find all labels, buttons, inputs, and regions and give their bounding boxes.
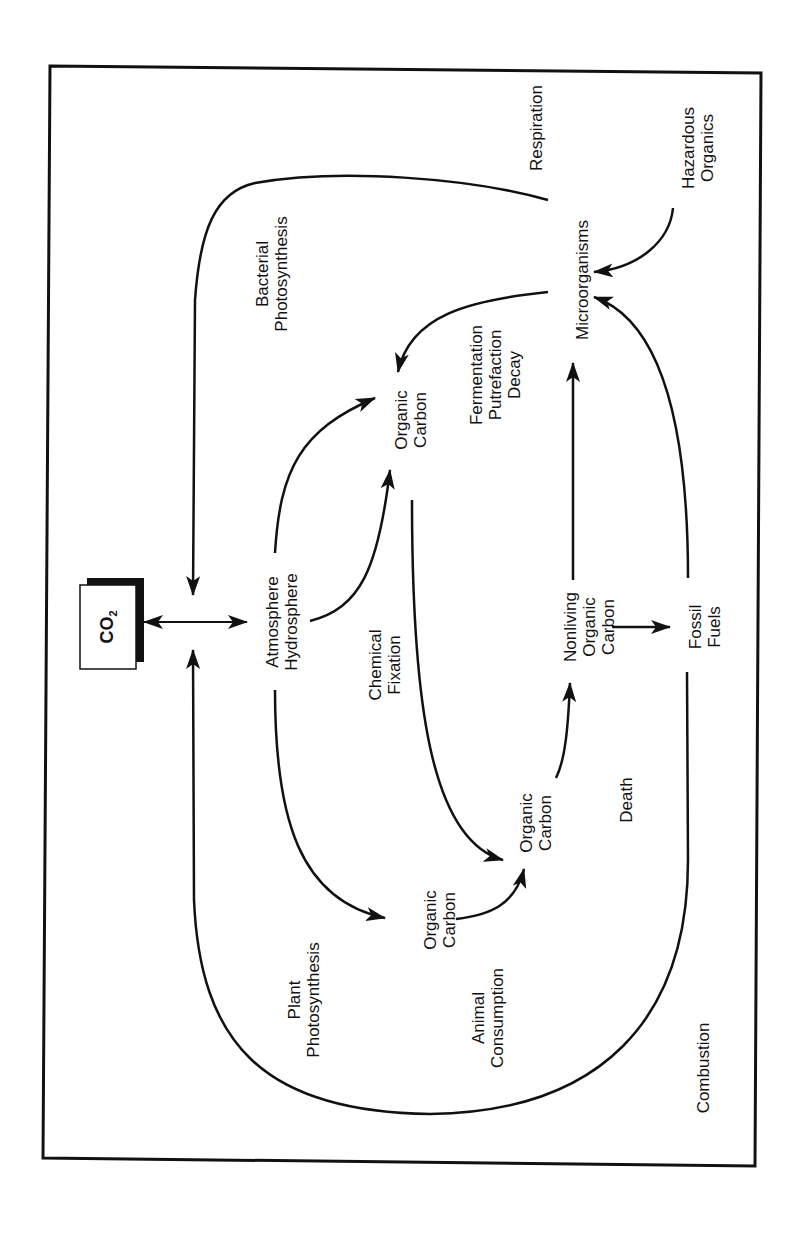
node-organic-carbon-lower: OrganicCarbon: [383, 890, 478, 950]
node-hazardous-organics: HazardousOrganics: [641, 107, 736, 189]
process-chemical-fixation: ChemicalFixation: [328, 630, 423, 701]
node-atmosphere-hydrosphere: AtmosphereHydrosphere: [225, 573, 320, 670]
plant-photosynthesis-arrow: [275, 690, 385, 918]
process-fermentation-putrefaction-decay: FermentationPutrefactionDecay: [429, 325, 543, 425]
node-fossil-fuels: FossilFuels: [648, 605, 743, 649]
death-arrow: [556, 683, 570, 778]
node-nonliving-organic-carbon: NonlivingOrganicCarbon: [523, 592, 637, 662]
process-animal-consumption: AnimalConsumption: [431, 968, 526, 1068]
process-bacterial-photosynthesis: BacterialPhotosynthesis: [215, 216, 310, 331]
co2-label: CO2: [97, 610, 120, 643]
process-respiration: Respiration: [489, 85, 565, 171]
node-organic-carbon-middle: OrganicCarbon: [479, 793, 574, 853]
node-microorganisms: Microorganisms: [535, 220, 611, 340]
process-plant-photosynthesis: PlantPhotosynthesis: [247, 942, 342, 1057]
process-death: Death: [579, 777, 655, 822]
chemical-fixation-arrow: [310, 470, 390, 621]
process-combustion: Combustion: [656, 1023, 732, 1114]
